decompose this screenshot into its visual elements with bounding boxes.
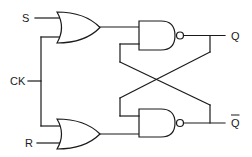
- label-r: R: [25, 137, 33, 149]
- top-nand-bubble: [177, 32, 184, 39]
- wire-q-feedback-diagonal: [120, 52, 210, 98]
- label-ck: CK: [10, 75, 26, 87]
- top-nand-gate: [139, 21, 175, 50]
- sr-flip-flop-diagram: S CK R Q Q: [0, 0, 252, 157]
- label-q: Q: [231, 30, 240, 42]
- wire-qbar-feedback-diagonal: [120, 62, 210, 105]
- label-q-bar: Q: [231, 117, 240, 129]
- top-or-gate: [57, 12, 100, 43]
- label-s: S: [22, 12, 29, 24]
- bottom-nand-gate: [139, 109, 175, 137]
- circuit-svg: S CK R Q Q: [0, 0, 252, 157]
- bottom-or-gate: [57, 119, 100, 149]
- bottom-nand-bubble: [177, 120, 184, 127]
